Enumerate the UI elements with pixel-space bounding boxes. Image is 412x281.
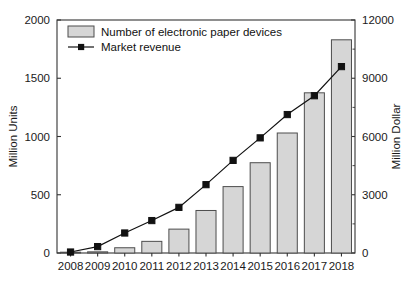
x-axis-tick-label-2017: 2017 bbox=[302, 260, 328, 272]
market-revenue-marker-2012 bbox=[176, 204, 182, 210]
bar-2012 bbox=[169, 229, 189, 253]
right-axis-title: Million Dollar bbox=[390, 103, 402, 169]
bar-2010 bbox=[115, 248, 135, 253]
market-revenue-marker-2008 bbox=[67, 249, 73, 255]
bar-2016 bbox=[277, 133, 297, 253]
market-revenue-marker-2017 bbox=[311, 93, 317, 99]
market-revenue-marker-2018 bbox=[338, 64, 344, 70]
x-axis-tick-label-2014: 2014 bbox=[220, 260, 246, 272]
right-axis-tick-label: 3000 bbox=[362, 189, 388, 201]
bar-2013 bbox=[196, 210, 216, 253]
left-axis-tick-label: 2000 bbox=[24, 14, 50, 26]
bar-2009 bbox=[88, 252, 108, 253]
left-axis-title: Million Units bbox=[7, 105, 19, 167]
bar-2015 bbox=[250, 163, 270, 253]
x-axis-tick-label-2018: 2018 bbox=[329, 260, 355, 272]
market-revenue-marker-2009 bbox=[95, 243, 101, 249]
x-axis-tick-label-2013: 2013 bbox=[193, 260, 219, 272]
legend-label-devices: Number of electronic paper devices bbox=[101, 26, 282, 38]
x-axis-tick-label-2011: 2011 bbox=[139, 260, 164, 272]
dual-axis-bar-line-chart: 0500100015002000Million Units03000600090… bbox=[0, 0, 412, 281]
market-revenue-marker-2016 bbox=[284, 111, 290, 117]
left-axis-tick-label: 500 bbox=[31, 189, 50, 201]
market-revenue-marker-2014 bbox=[230, 157, 236, 163]
left-axis-tick-label: 0 bbox=[44, 247, 50, 259]
right-axis-tick-label: 0 bbox=[362, 247, 368, 259]
market-revenue-marker-2011 bbox=[149, 217, 155, 223]
bar-2011 bbox=[142, 241, 162, 253]
legend-marker-square-icon bbox=[78, 44, 84, 50]
x-axis-tick-label-2009: 2009 bbox=[85, 260, 111, 272]
legend-label-revenue: Market revenue bbox=[101, 41, 181, 53]
x-axis-tick-label-2008: 2008 bbox=[58, 260, 84, 272]
market-revenue-marker-2015 bbox=[257, 135, 263, 141]
right-axis-tick-label: 6000 bbox=[362, 131, 388, 143]
market-revenue-marker-2013 bbox=[203, 182, 209, 188]
bar-2018 bbox=[331, 40, 351, 253]
x-axis-tick-label-2016: 2016 bbox=[274, 260, 300, 272]
right-axis-tick-label: 12000 bbox=[362, 14, 394, 26]
left-axis-tick-label: 1500 bbox=[24, 72, 50, 84]
x-axis-tick-label-2012: 2012 bbox=[166, 260, 192, 272]
right-axis-tick-label: 9000 bbox=[362, 72, 388, 84]
bar-2014 bbox=[223, 187, 243, 253]
left-axis-tick-label: 1000 bbox=[24, 131, 50, 143]
market-revenue-marker-2010 bbox=[122, 230, 128, 236]
legend-bar-swatch-icon bbox=[68, 26, 94, 37]
chart-figure: 0500100015002000Million Units03000600090… bbox=[0, 0, 412, 281]
bar-2017 bbox=[304, 93, 324, 253]
x-axis-tick-label-2010: 2010 bbox=[112, 260, 138, 272]
x-axis-tick-label-2015: 2015 bbox=[247, 260, 273, 272]
